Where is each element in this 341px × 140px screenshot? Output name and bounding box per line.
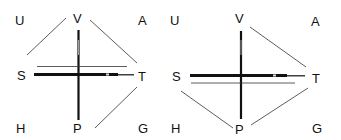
label-p: P: [235, 122, 244, 137]
label-g: G: [312, 121, 322, 136]
line-marker: [273, 75, 276, 77]
diagram-canvas: U V A S T H P G U V A S T H P G: [0, 0, 341, 140]
diagonal-v-t: [90, 20, 137, 63]
label-g: G: [138, 121, 148, 136]
label-a: A: [138, 13, 147, 28]
label-h: H: [171, 121, 180, 136]
diagonal-s-p: [181, 91, 233, 128]
right-diagram: U V A S T H P G: [170, 11, 322, 137]
line-marker: [106, 74, 109, 76]
diagonal-u-v: [27, 18, 66, 55]
label-u: U: [170, 13, 179, 28]
diagonal-t-p: [95, 87, 137, 128]
label-u: U: [15, 13, 24, 28]
label-a: A: [311, 14, 320, 29]
label-s: S: [172, 69, 181, 84]
label-t: T: [138, 69, 146, 84]
label-h: H: [16, 121, 25, 136]
label-s: S: [17, 68, 26, 83]
label-t: T: [312, 71, 320, 86]
left-diagram: U V A S T H P G: [15, 11, 148, 136]
diagonal-v-t: [250, 27, 306, 67]
diagonal-t-p: [251, 88, 308, 125]
label-p: P: [73, 121, 82, 136]
label-v: V: [235, 11, 244, 26]
label-v: V: [73, 11, 82, 26]
